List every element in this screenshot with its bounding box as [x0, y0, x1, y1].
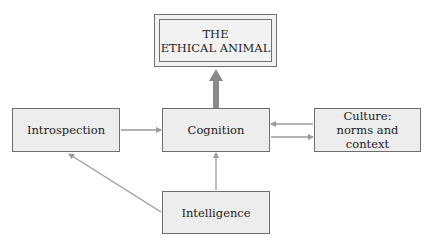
- node-intelligence-label: Intelligence: [181, 206, 250, 220]
- node-intelligence: Intelligence: [162, 191, 270, 234]
- node-culture-line-1: Culture:: [343, 109, 391, 123]
- node-cognition: Cognition: [162, 108, 270, 152]
- node-introspection: Introspection: [12, 108, 120, 152]
- node-culture-line-2: norms and context: [315, 123, 420, 151]
- node-culture: Culture: norms and context: [314, 108, 421, 152]
- node-cognition-label: Cognition: [188, 123, 245, 137]
- arrow-intelligence-to-introspection: [69, 154, 161, 212]
- node-introspection-label: Introspection: [27, 123, 105, 137]
- node-ethical-animal: THE ETHICAL ANIMAL: [154, 14, 277, 67]
- node-ethical-animal-line-2: ETHICAL ANIMAL: [161, 41, 271, 55]
- node-ethical-animal-line-1: THE: [202, 27, 228, 41]
- arrow-cognition-to-ethical-animal: [209, 69, 223, 108]
